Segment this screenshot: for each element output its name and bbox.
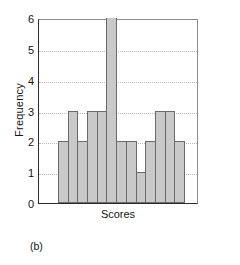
figure-caption: (b) <box>30 240 43 252</box>
x-axis-title: Scores <box>38 208 198 220</box>
y-tick-label: 6 <box>18 14 34 25</box>
y-tick-label: 3 <box>18 106 34 117</box>
y-tick-label: 1 <box>18 168 34 179</box>
y-tick-label: 0 <box>18 199 34 210</box>
bar-series <box>58 20 197 203</box>
y-tick-label: 5 <box>18 44 34 55</box>
histogram-bar <box>174 141 185 203</box>
y-tick-label: 4 <box>18 75 34 86</box>
histogram-figure: Frequency 0123456 Scores (b) <box>0 0 240 265</box>
y-tick-label: 2 <box>18 137 34 148</box>
plot-inner <box>39 20 197 203</box>
y-axis-tick-labels: 0123456 <box>18 14 34 204</box>
plot-area <box>38 19 198 204</box>
